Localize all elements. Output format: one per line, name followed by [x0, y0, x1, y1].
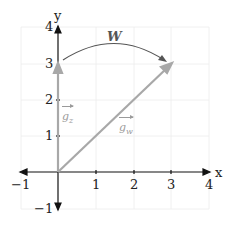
y-tick-1: 1: [45, 129, 53, 142]
vector-arrow-icon: [119, 117, 133, 118]
vector-g-z-label: gz: [62, 111, 73, 125]
y-tick-3: 3: [45, 57, 53, 70]
y-tick-2: 2: [45, 93, 53, 106]
x-tick-3: 3: [167, 178, 175, 191]
y-tick-neg1: −1: [34, 202, 53, 215]
x-tick-1: 1: [92, 178, 100, 191]
x-axis-label: x: [215, 166, 222, 179]
vector-g-w-label: gw: [119, 122, 133, 136]
vector-g-z-arrowhead-icon: [54, 63, 62, 73]
vector-g-z: [54, 63, 62, 172]
y-tick-4: 4: [45, 20, 53, 33]
vector-g-w: [58, 63, 172, 172]
rotation-arrowhead-icon: [158, 55, 167, 62]
rotation-label: W: [107, 29, 122, 44]
x-tick-neg1: −1: [11, 178, 30, 191]
y-axis-label: y: [54, 9, 61, 22]
vector-arrow-icon: [62, 106, 73, 107]
x-tick-2: 2: [130, 178, 138, 191]
x-axis: [20, 169, 210, 175]
x-tick-4: 4: [205, 178, 213, 191]
rotation-arc: [63, 44, 167, 63]
